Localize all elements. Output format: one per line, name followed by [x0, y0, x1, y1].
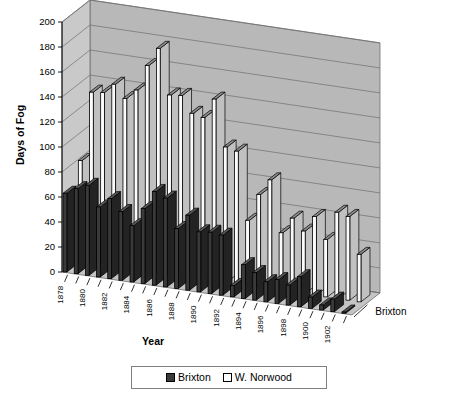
x-tick-mark — [165, 290, 168, 297]
bar-front — [342, 312, 346, 313]
x-tick-mark — [299, 309, 302, 316]
y-tick-label: 180 — [39, 41, 55, 52]
x-tick-label: 1890 — [189, 305, 198, 323]
bar-w-norwood — [357, 247, 370, 302]
bar-front — [63, 193, 67, 272]
x-tick-label: 1896 — [256, 315, 265, 333]
bar-front — [152, 191, 156, 285]
bar-front — [286, 285, 290, 305]
x-tick-label: 1882 — [100, 292, 109, 310]
x-tick-label: 1892 — [212, 308, 221, 326]
x-tick-mark — [176, 291, 179, 298]
x-tick-mark — [76, 276, 79, 283]
x-tick-mark — [109, 281, 112, 288]
bar-front — [219, 235, 223, 295]
bar-front — [197, 232, 201, 292]
legend-swatch-w-norwood-icon — [223, 373, 232, 382]
bar-front — [320, 305, 324, 310]
x-tick-label: 1898 — [279, 318, 288, 336]
bar-front — [357, 254, 361, 302]
x-tick-mark — [65, 275, 68, 282]
x-axis-title: Year — [142, 335, 164, 347]
fog-days-3d-bar-chart: 020406080100120140160180200Days of Fog18… — [0, 0, 456, 407]
y-tick-label: 60 — [44, 191, 55, 202]
bar-front — [230, 286, 234, 297]
x-tick-mark — [210, 296, 213, 303]
x-tick-mark — [254, 303, 257, 310]
x-tick-mark — [243, 301, 246, 308]
bar-front — [242, 265, 246, 299]
bar-front — [275, 280, 279, 304]
x-tick-label: 1884 — [123, 295, 132, 313]
x-tick-label: 1902 — [323, 325, 332, 343]
x-tick-mark — [321, 313, 324, 320]
x-tick-mark — [143, 286, 146, 293]
legend-entry-w-norwood: W. Norwood — [223, 372, 292, 383]
bar-front — [297, 277, 301, 307]
bar-front — [85, 185, 89, 275]
chart-legend: Brixton W. Norwood — [131, 366, 327, 389]
chart-canvas: 020406080100120140160180200Days of Fog18… — [0, 0, 456, 407]
x-tick-mark — [277, 306, 280, 313]
bar-front — [130, 226, 134, 282]
x-tick-mark — [221, 298, 224, 305]
x-tick-mark — [343, 316, 346, 323]
y-tick-label: 160 — [39, 66, 55, 77]
bar-brixton — [219, 228, 232, 295]
x-tick-label: 1878 — [56, 285, 65, 303]
bar-front — [208, 232, 212, 293]
x-tick-mark — [198, 295, 201, 302]
x-tick-mark — [87, 278, 90, 285]
y-tick-label: 80 — [44, 166, 55, 177]
bar-front — [335, 212, 339, 298]
y-tick-label: 40 — [44, 216, 55, 227]
bar-front — [234, 151, 238, 284]
legend-label-brixton: Brixton — [178, 372, 211, 383]
bar-front — [313, 216, 317, 295]
legend-label-w-norwood: W. Norwood — [235, 372, 292, 383]
x-tick-mark — [120, 283, 123, 290]
bar-front — [324, 239, 328, 297]
y-tick-label: 120 — [39, 116, 55, 127]
x-tick-mark — [187, 293, 190, 300]
x-tick-label: 1888 — [167, 302, 176, 320]
x-tick-label: 1894 — [234, 312, 243, 330]
x-tick-mark — [288, 308, 291, 315]
x-tick-label: 1880 — [78, 289, 87, 307]
x-tick-mark — [98, 280, 101, 287]
bar-front — [268, 180, 272, 289]
x-tick-mark — [232, 300, 235, 307]
bar-front — [74, 189, 78, 274]
bar-front — [346, 216, 350, 300]
y-tick-label: 20 — [44, 241, 55, 252]
y-tick-label: 200 — [39, 16, 55, 27]
y-tick-label: 100 — [39, 141, 55, 152]
legend-entry-brixton: Brixton — [166, 372, 211, 383]
x-tick-label: 1900 — [301, 322, 310, 340]
bar-front — [253, 273, 257, 301]
bar-front — [186, 215, 190, 290]
x-tick-mark — [154, 288, 157, 295]
y-tick-label: 0 — [50, 266, 55, 277]
bar-front — [119, 212, 123, 281]
bar-front — [108, 199, 112, 279]
x-tick-mark — [265, 305, 268, 312]
x-tick-mark — [332, 314, 335, 321]
x-tick-mark — [310, 311, 313, 318]
bar-front — [309, 297, 313, 308]
bar-front — [164, 198, 168, 287]
bar-front — [175, 229, 179, 289]
x-tick-mark — [132, 285, 135, 292]
bar-front — [331, 299, 335, 312]
bar-side — [361, 247, 370, 302]
z-series-label: Brixton — [375, 306, 406, 317]
bar-front — [141, 209, 145, 284]
y-tick-label: 140 — [39, 91, 55, 102]
x-tick-label: 1886 — [145, 298, 154, 316]
bar-front — [97, 207, 101, 277]
bar-front — [264, 282, 268, 302]
legend-swatch-brixton-icon — [166, 373, 175, 382]
y-axis-title: Days of Fog — [14, 105, 26, 165]
